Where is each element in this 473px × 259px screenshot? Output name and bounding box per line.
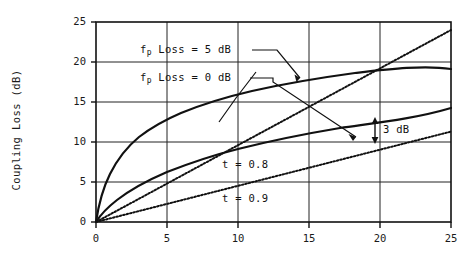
x-tick-15: 15 <box>296 232 322 244</box>
annotation-t-0-8: t = 0.8 <box>222 158 268 170</box>
y-tick-10: 10 <box>60 135 86 147</box>
annotation-fp5-rest: Loss = 5 dB <box>152 43 231 55</box>
annotation-3db-label: 3 dB <box>383 123 410 135</box>
y-tick-25: 25 <box>60 15 86 27</box>
annotation-fp0-f: f <box>140 71 147 83</box>
y-tick-5: 5 <box>60 175 86 187</box>
x-tick-25: 25 <box>438 232 464 244</box>
annotation-fp-loss-5db: fp Loss = 5 dB <box>140 43 231 57</box>
x-tick-10: 10 <box>225 232 251 244</box>
chart-figure: Coupling Loss (dB) 25 20 15 10 5 0 0 5 1… <box>0 0 473 259</box>
annotation-t-0-9: t = 0.9 <box>222 192 268 204</box>
leader-fp5 <box>252 50 300 82</box>
annotation-3db-arrow <box>372 117 379 144</box>
x-tick-0: 0 <box>83 232 109 244</box>
y-tick-20: 20 <box>60 55 86 67</box>
annotation-fp5-f: f <box>140 43 147 55</box>
x-tick-20: 20 <box>367 232 393 244</box>
annotation-fp-loss-0db: fp Loss = 0 dB <box>140 71 231 85</box>
y-tick-15: 15 <box>60 95 86 107</box>
series-t-0-9 <box>96 132 451 222</box>
x-tick-5: 5 <box>154 232 180 244</box>
y-tick-0: 0 <box>60 215 86 227</box>
annotation-fp0-rest: Loss = 0 dB <box>152 71 231 83</box>
